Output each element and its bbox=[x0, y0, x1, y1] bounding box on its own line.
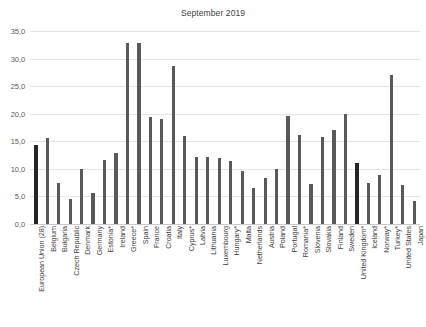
bar bbox=[413, 201, 416, 224]
x-tick-label: Turkey* bbox=[394, 226, 401, 250]
x-tick-label: Slovakia bbox=[325, 226, 332, 253]
bar bbox=[46, 138, 49, 224]
bar bbox=[195, 157, 198, 224]
bar bbox=[401, 185, 404, 224]
x-tick-label: Finland bbox=[337, 226, 344, 249]
x-tick-label: Greece* bbox=[130, 226, 137, 252]
bar bbox=[321, 137, 324, 224]
bar bbox=[218, 158, 221, 224]
bar bbox=[332, 130, 335, 224]
x-axis: European Union (28)BelgiumBulgariaCzech … bbox=[30, 226, 420, 326]
bar bbox=[91, 193, 94, 224]
x-tick-label: Bulgaria bbox=[61, 226, 68, 252]
bar bbox=[367, 183, 370, 224]
bar bbox=[183, 136, 186, 224]
bar bbox=[172, 66, 175, 224]
y-tick-label: 5,0 bbox=[15, 192, 25, 201]
bar bbox=[355, 163, 359, 224]
x-tick-label: Italy bbox=[176, 226, 183, 239]
bar bbox=[252, 188, 255, 224]
bar bbox=[206, 157, 209, 224]
y-tick-label: 20,0 bbox=[11, 109, 25, 118]
y-tick-label: 0,0 bbox=[15, 220, 25, 229]
x-tick-label: Denmark bbox=[84, 226, 91, 255]
bar bbox=[241, 171, 244, 224]
bar bbox=[149, 117, 152, 224]
x-tick-label: Poland bbox=[279, 226, 286, 248]
x-tick-label: Lithuania bbox=[210, 226, 217, 255]
y-tick-label: 30,0 bbox=[11, 54, 25, 63]
chart-title: September 2019 bbox=[0, 8, 426, 18]
bar bbox=[286, 116, 289, 224]
x-tick-label: France bbox=[153, 226, 160, 248]
x-tick-label: United States bbox=[405, 226, 412, 269]
x-tick-label: United Kingdom* bbox=[360, 226, 367, 279]
bar bbox=[57, 183, 60, 224]
x-tick-label: Czech Republic bbox=[73, 226, 80, 276]
bar bbox=[103, 160, 106, 224]
bar bbox=[390, 75, 393, 224]
x-tick-label: Luxembourg bbox=[222, 226, 229, 265]
bar bbox=[69, 199, 72, 224]
bar-chart: September 2019 35,030,025,020,015,010,05… bbox=[0, 0, 426, 327]
x-tick-label: Portugal bbox=[291, 226, 298, 252]
x-tick-label: European Union (28) bbox=[38, 226, 45, 292]
x-tick-label: Japan bbox=[417, 226, 424, 245]
x-tick-label: Iceland bbox=[371, 226, 378, 249]
x-tick-label: Sweden bbox=[348, 226, 355, 252]
bar bbox=[298, 135, 301, 224]
bar bbox=[264, 178, 267, 224]
bars-layer bbox=[30, 31, 420, 224]
y-tick-label: 10,0 bbox=[11, 164, 25, 173]
x-tick-label: Croatia bbox=[165, 226, 172, 249]
x-tick-label: Slovenia bbox=[314, 226, 321, 253]
bar bbox=[137, 43, 140, 224]
bar bbox=[378, 175, 381, 224]
x-tick-label: Germany bbox=[96, 226, 103, 255]
x-tick-label: Austria bbox=[268, 226, 275, 248]
bar bbox=[80, 169, 83, 224]
bar bbox=[309, 184, 312, 224]
x-tick-label: Malta bbox=[245, 226, 252, 243]
x-tick-label: Estonia* bbox=[107, 226, 114, 252]
bar bbox=[114, 153, 117, 224]
x-tick-label: Romania* bbox=[302, 226, 309, 257]
x-tick-label: Belgium bbox=[50, 226, 57, 252]
y-tick-label: 15,0 bbox=[11, 137, 25, 146]
y-tick-label: 35,0 bbox=[11, 27, 25, 36]
x-tick-label: Norway* bbox=[383, 226, 390, 253]
bar bbox=[229, 161, 232, 224]
x-tick-label: Spain bbox=[142, 226, 149, 244]
x-tick-label: Latvia bbox=[199, 226, 206, 245]
y-tick-label: 25,0 bbox=[11, 82, 25, 91]
x-tick-label: Netherlands bbox=[256, 226, 263, 264]
y-axis: 35,030,025,020,015,010,05,00,0 bbox=[0, 31, 28, 224]
bar bbox=[344, 114, 347, 224]
x-tick-label: Hungary* bbox=[233, 226, 240, 256]
x-tick-label: Cyprus* bbox=[188, 226, 195, 251]
bar bbox=[275, 169, 278, 224]
bar bbox=[126, 43, 129, 224]
bar bbox=[34, 145, 38, 224]
bar bbox=[160, 119, 163, 224]
x-tick-label: Ireland bbox=[119, 226, 126, 248]
